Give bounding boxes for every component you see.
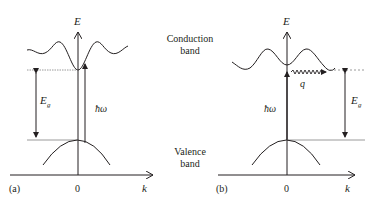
panel-a: E 0 k (a) E g ħω <box>9 15 153 195</box>
phonon-arrow-b <box>291 70 326 74</box>
phonon-label-b: q <box>300 78 305 89</box>
e-axis-label-b: E <box>282 15 290 27</box>
origin-label-b: 0 <box>284 183 289 194</box>
band-diagram: E 0 k (a) E g ħω Conduction band Valence… <box>0 0 381 202</box>
conduction-band-label-1: Conduction <box>167 33 214 44</box>
center-labels: Conduction band Valence band <box>167 33 214 169</box>
valence-band-curve-a <box>43 140 110 165</box>
photon-label-a: ħω <box>95 103 107 114</box>
conduction-band-label-2: band <box>180 45 199 56</box>
valence-band-curve-b <box>252 140 320 165</box>
panel-b: E 0 k (b) E g ħω q <box>216 15 365 195</box>
e-axis-label-a: E <box>73 15 81 27</box>
valence-band-label-1: Valence <box>174 146 206 157</box>
valence-band-label-2: band <box>180 158 199 169</box>
panel-label-b: (b) <box>216 183 228 195</box>
k-axis-label-a: k <box>142 182 148 194</box>
gap-sub-b: g <box>358 101 362 109</box>
conduction-band-curve-b <box>232 49 335 71</box>
origin-label-a: 0 <box>75 183 80 194</box>
gap-label-a: E <box>39 94 47 106</box>
k-axis-label-b: k <box>345 182 351 194</box>
gap-sub-a: g <box>47 101 51 109</box>
panel-label-a: (a) <box>9 183 20 195</box>
photon-label-b: ħω <box>264 103 276 114</box>
gap-label-b: E <box>350 94 358 106</box>
